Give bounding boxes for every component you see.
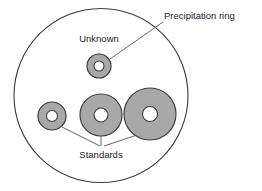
unknown-ring-well [94,61,104,71]
diagram-canvas: Precipitation ring Unknown Standards [0,0,262,191]
standard-ring-medium-well [94,108,108,122]
label-unknown: Unknown [79,33,119,44]
label-precipitation-ring: Precipitation ring [164,10,235,21]
standard-ring-small-well [47,111,58,122]
unknown-ring[interactable] [87,54,111,78]
standard-ring-medium[interactable] [80,94,122,136]
standard-ring-small[interactable] [38,102,66,130]
standard-ring-large-well [143,107,158,122]
standard-ring-large[interactable] [124,88,176,140]
label-standards: Standards [79,149,123,160]
radial-immunodiffusion-diagram: Precipitation ring Unknown Standards [0,0,262,191]
